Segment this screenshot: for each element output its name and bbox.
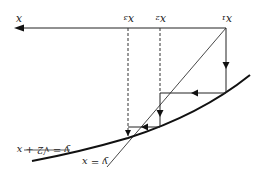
arrow-down-icon [125, 130, 131, 136]
cobweb-diagram: x x₁ x₂ x₃ y = √2 + x y = x [0, 0, 260, 174]
identity-line [107, 28, 226, 167]
line-label: y = x [82, 157, 109, 168]
label-x3: x₃ [123, 13, 134, 26]
label-x2: x₂ [155, 13, 166, 26]
curve-label: y = √2 + x [16, 145, 71, 156]
arrow-down-icon [157, 110, 164, 117]
arrow-down-icon [223, 62, 230, 69]
diagram-canvas: x x₁ x₂ x₃ y = √2 + x y = x [0, 0, 260, 174]
axis-label-x: x [15, 13, 22, 26]
label-x1: x₁ [221, 13, 232, 26]
arrow-left-icon [191, 90, 198, 97]
arrow-left-icon [141, 124, 148, 131]
